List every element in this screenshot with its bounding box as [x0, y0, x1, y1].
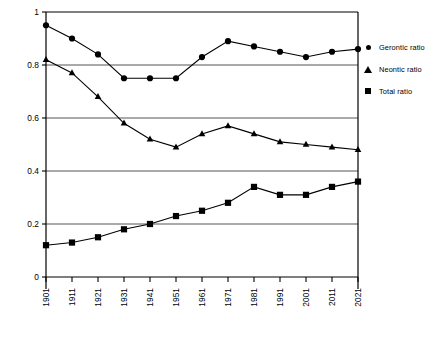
y-tick-label: 0.2 — [27, 219, 39, 229]
data-point — [147, 75, 153, 81]
data-point — [225, 200, 231, 206]
data-point — [329, 184, 335, 190]
data-point — [355, 179, 361, 185]
x-tick-label: 1951 — [171, 288, 181, 307]
circle-marker-icon — [362, 41, 374, 53]
y-axis-ticks: 00.20.40.60.81 — [27, 7, 46, 282]
data-point — [225, 38, 231, 44]
y-tick-label: 0.6 — [27, 113, 39, 123]
square-marker-icon — [362, 85, 374, 97]
grid-lines — [46, 12, 358, 224]
data-point — [43, 56, 50, 62]
x-tick-label: 1991 — [275, 288, 285, 307]
x-tick-label: 1911 — [67, 288, 77, 306]
data-point — [147, 221, 153, 227]
data-point — [329, 49, 335, 55]
x-tick-label: 1961 — [197, 288, 207, 307]
x-tick-label: 1981 — [249, 288, 259, 307]
data-point — [251, 184, 257, 190]
triangle-marker-icon — [362, 63, 374, 75]
data-point — [95, 234, 101, 240]
x-tick-label: 1971 — [223, 288, 233, 307]
x-tick-label: 1941 — [145, 288, 155, 307]
data-point — [121, 75, 127, 81]
legend-item-neontic-ratio: Neontic ratio — [362, 58, 435, 80]
y-tick-label: 0 — [34, 272, 39, 282]
series-gerontic-ratio — [43, 22, 361, 81]
x-tick-label: 1901 — [41, 288, 51, 307]
data-point — [225, 122, 232, 128]
data-point — [43, 242, 49, 248]
data-point — [303, 54, 309, 60]
data-point — [147, 135, 154, 141]
data-point — [69, 35, 75, 41]
legend-item-total-ratio: Total ratio — [362, 80, 435, 102]
data-point — [173, 75, 179, 81]
data-point — [277, 192, 283, 198]
legend-label-gerontic-ratio: Gerontic ratio — [379, 43, 425, 52]
data-point — [173, 213, 179, 219]
data-point — [199, 208, 205, 214]
y-tick-label: 1 — [34, 7, 39, 17]
x-tick-label: 1931 — [119, 288, 129, 307]
data-point — [303, 192, 309, 198]
data-point — [251, 43, 257, 49]
y-tick-label: 0.4 — [27, 166, 39, 176]
x-tick-label: 2021 — [353, 288, 363, 307]
axes — [46, 12, 358, 289]
data-point — [277, 49, 283, 55]
data-point — [43, 22, 49, 28]
series-neontic-ratio — [43, 56, 362, 152]
data-point — [199, 54, 205, 60]
x-tick-label: 2001 — [301, 288, 311, 307]
chart-legend: Gerontic ratio Neontic ratio Total ratio — [362, 36, 435, 102]
legend-label-total-ratio: Total ratio — [379, 87, 412, 96]
figure: 00.20.40.60.8119011911192119311941195119… — [0, 0, 435, 337]
legend-item-gerontic-ratio: Gerontic ratio — [362, 36, 435, 58]
data-point — [121, 226, 127, 232]
x-axis-ticks: 1901191119211931194119511961197119811991… — [41, 277, 363, 307]
x-tick-label: 2011 — [327, 288, 337, 306]
data-point — [95, 51, 101, 57]
series-total-ratio — [43, 179, 361, 249]
data-point — [69, 239, 75, 245]
data-point — [355, 46, 361, 52]
y-tick-label: 0.8 — [27, 60, 39, 70]
x-tick-label: 1921 — [93, 288, 103, 307]
legend-label-neontic-ratio: Neontic ratio — [379, 65, 422, 74]
